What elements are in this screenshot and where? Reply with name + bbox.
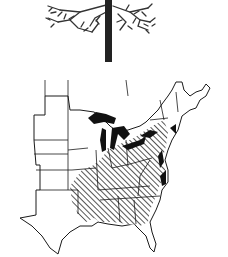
range-map — [0, 0, 228, 257]
figure — [0, 0, 228, 257]
